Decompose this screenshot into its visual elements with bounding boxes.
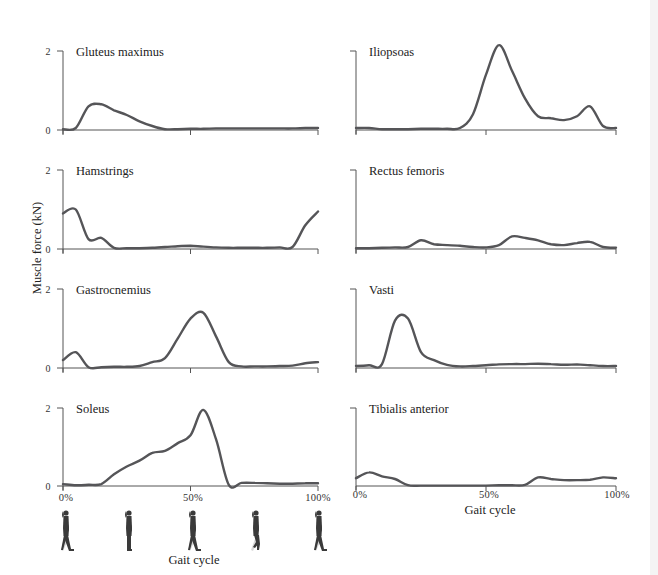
panel-gluteus-maximus: 20Gluteus maximus — [46, 45, 319, 136]
x-tick-0-left: 0% — [59, 492, 74, 503]
force-curve-vasti — [356, 315, 616, 368]
muscle-force-figure: Muscle force (kN) 20Gluteus maximusIliop… — [0, 0, 658, 575]
y-tick-label-2: 2 — [46, 284, 51, 295]
x-tick-50-left: 50% — [183, 492, 203, 503]
walking-figures — [61, 510, 327, 551]
panel-title: Soleus — [76, 402, 109, 416]
panel-tibialis-anterior: Tibialis anterior — [350, 402, 616, 491]
panel-gastrocnemius: 20Gastrocnemius — [46, 283, 319, 374]
y-axis-title: Muscle force (kN) — [30, 202, 44, 294]
panel-rectus-femoris: Rectus femoris — [350, 164, 616, 254]
y-tick-label-0: 0 — [46, 481, 51, 492]
x-tick-0-right: 0% — [353, 489, 368, 500]
panels-container: 20Gluteus maximusIliopsoas20HamstringsRe… — [46, 45, 617, 492]
y-tick-label-0: 0 — [46, 363, 51, 374]
x-axis-title-right: Gait cycle — [464, 503, 515, 517]
walker-icon-1 — [61, 510, 74, 551]
force-curve-gluteus-maximus — [63, 104, 318, 130]
force-curve-rectus-femoris — [356, 236, 616, 248]
panel-title: Iliopsoas — [369, 45, 414, 59]
panel-title: Rectus femoris — [369, 164, 444, 178]
panel-title: Vasti — [369, 283, 395, 297]
walker-icon-4 — [251, 510, 260, 551]
walker-icon-5 — [314, 510, 327, 551]
panel-title: Tibialis anterior — [369, 402, 450, 416]
force-curve-soleus — [63, 410, 318, 488]
walker-icon-2 — [125, 510, 132, 551]
force-curve-tibialis-anterior — [356, 472, 616, 485]
x-tick-100-left: 100% — [305, 492, 331, 503]
y-tick-label-2: 2 — [46, 46, 51, 57]
force-curve-hamstrings — [63, 208, 318, 249]
y-tick-label-2: 2 — [46, 165, 51, 176]
panel-title: Gluteus maximus — [76, 45, 164, 59]
walker-icon-3 — [188, 510, 201, 551]
panel-title: Hamstrings — [76, 164, 134, 178]
x-tick-50-right: 50% — [479, 489, 499, 500]
x-axis-title-left: Gait cycle — [168, 553, 219, 567]
panel-iliopsoas: Iliopsoas — [350, 45, 616, 135]
y-tick-label-0: 0 — [46, 244, 51, 255]
panel-title: Gastrocnemius — [76, 283, 151, 297]
x-tick-100-right: 100% — [604, 489, 630, 500]
y-tick-label-0: 0 — [46, 125, 51, 136]
panel-soleus: 20Soleus — [46, 402, 319, 492]
y-tick-label-2: 2 — [46, 403, 51, 414]
panel-vasti: Vasti — [350, 283, 616, 373]
force-curve-gastrocnemius — [63, 312, 318, 369]
panel-hamstrings: 20Hamstrings — [46, 164, 319, 255]
